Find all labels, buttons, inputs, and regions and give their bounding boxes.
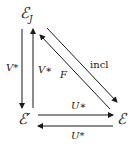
commutative-diagram: ℰJ ℰ′ ℰ V* V∗ F incl U∗ U* [0,0,137,150]
node-e-j-symbol: ℰ [20,4,29,22]
node-e: ℰ [117,112,126,127]
node-e-j-subscript: J [29,14,33,24]
label-u-lower-star: U∗ [71,101,86,111]
node-e-j: ℰJ [20,6,33,24]
label-incl: incl [90,60,108,70]
label-f: F [60,70,67,80]
label-v-lower-star: V∗ [38,65,52,75]
label-u-upper-star: U* [71,131,84,141]
label-v-star: V* [6,63,18,73]
node-e-prime: ℰ′ [18,112,30,127]
